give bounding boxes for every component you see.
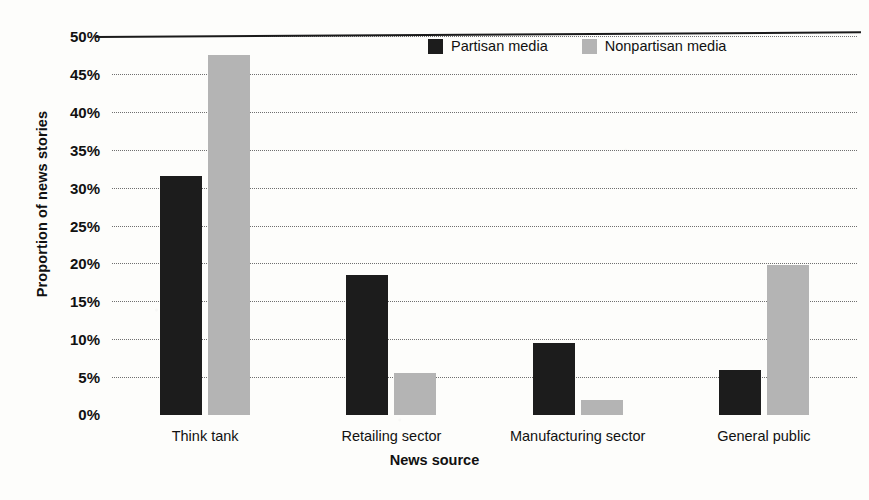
bar-group: General public: [719, 36, 809, 415]
bar-groups: Think tankRetailing sectorManufacturing …: [112, 36, 857, 415]
bar-nonpartisan[interactable]: [394, 373, 436, 415]
bar-partisan[interactable]: [346, 275, 388, 415]
y-axis-tick-label: 35%: [70, 142, 100, 159]
y-axis-tick-label: 10%: [70, 331, 100, 348]
y-axis-tick-label: 45%: [70, 66, 100, 83]
y-axis-tick-label: 15%: [70, 293, 100, 310]
y-axis-tick-label: 40%: [70, 104, 100, 121]
y-axis-tick-label: 30%: [70, 180, 100, 197]
x-axis-category-label: Think tank: [110, 428, 300, 444]
x-axis-category-label: Manufacturing sector: [483, 428, 673, 444]
bar-partisan[interactable]: [533, 343, 575, 415]
y-axis-tick-label: 25%: [70, 218, 100, 235]
bar-partisan[interactable]: [719, 370, 761, 415]
bar-partisan[interactable]: [160, 176, 202, 415]
plot-area: 50%45%40%35%30%25%20%15%10%5%0% Think ta…: [112, 36, 857, 415]
y-axis-title: Proportion of news stories: [34, 74, 50, 334]
bar-nonpartisan[interactable]: [767, 265, 809, 415]
x-axis-category-label: General public: [669, 428, 859, 444]
bar-nonpartisan[interactable]: [208, 55, 250, 415]
bar-chart: Proportion of news stories Partisan medi…: [0, 0, 869, 500]
y-axis-tick-label: 0%: [78, 406, 100, 423]
x-axis-title: News source: [0, 452, 869, 468]
y-axis-tick-label: 5%: [78, 369, 100, 386]
bar-group: Think tank: [160, 36, 250, 415]
bar-nonpartisan[interactable]: [581, 400, 623, 415]
bar-group: Manufacturing sector: [533, 36, 623, 415]
bar-group: Retailing sector: [346, 36, 436, 415]
y-axis-tick-label: 20%: [70, 256, 100, 273]
x-axis-category-label: Retailing sector: [296, 428, 486, 444]
